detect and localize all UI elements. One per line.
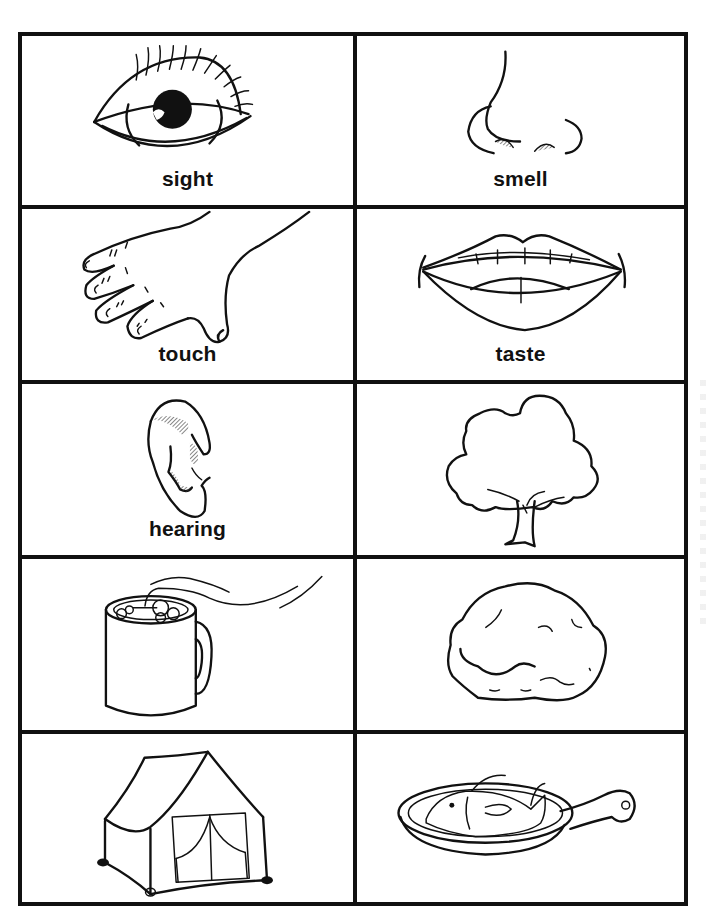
card-touch[interactable]: touch: [22, 209, 357, 384]
card-fish-in-pan[interactable]: [357, 734, 684, 902]
card-taste[interactable]: taste: [357, 209, 684, 384]
page-edge-marks: [700, 380, 706, 630]
card-label: taste: [357, 342, 684, 366]
card-tent[interactable]: [22, 734, 357, 902]
card-rock[interactable]: [357, 559, 684, 734]
card-label: sight: [22, 167, 353, 191]
card-sheet: sight smell: [18, 32, 688, 906]
card-sight[interactable]: sight: [22, 36, 357, 209]
card-hearing[interactable]: hearing: [22, 384, 357, 559]
card-label: smell: [357, 167, 684, 191]
card-label: touch: [22, 342, 353, 366]
card-label: hearing: [22, 517, 353, 541]
rock-icon: [357, 559, 684, 730]
fish-in-pan-icon: [357, 734, 684, 902]
tent-icon: [22, 734, 353, 902]
card-tree[interactable]: [357, 384, 684, 559]
card-hot-mug[interactable]: [22, 559, 357, 734]
card-smell[interactable]: smell: [357, 36, 684, 209]
tree-icon: [357, 384, 684, 555]
hot-mug-icon: [22, 559, 353, 730]
